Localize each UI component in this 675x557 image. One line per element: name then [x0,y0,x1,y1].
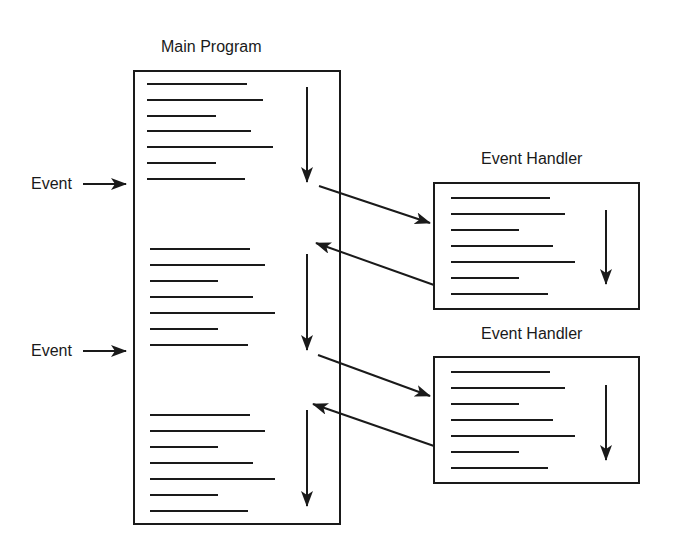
code-lines-2 [150,249,275,345]
event-label-2: Event [31,342,72,360]
main-program-title: Main Program [161,38,261,56]
event-label-1: Event [31,175,72,193]
event-handler-box-2 [434,357,639,483]
code-lines-1 [147,84,273,179]
call-arrow-icon [319,186,430,223]
code-lines-3 [150,415,275,511]
event-handler-box-1 [434,183,639,309]
main-program-box [134,71,340,524]
return-arrow-icon [313,404,434,446]
return-arrow-icon [316,243,434,285]
event-diagram [0,0,675,557]
call-arrow-icon [318,355,430,396]
event-handler-title-2: Event Handler [481,325,582,343]
event-handler-title-1: Event Handler [481,150,582,168]
